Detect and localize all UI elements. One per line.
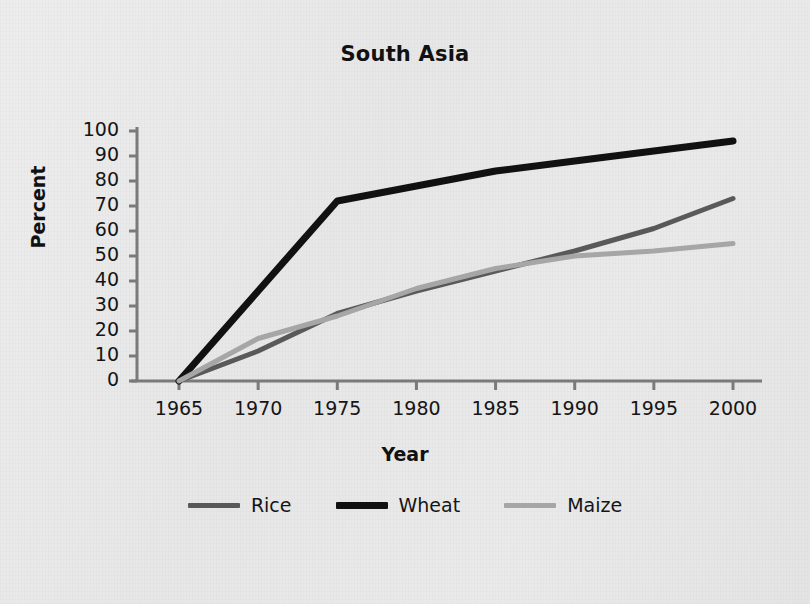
legend-label-maize: Maize <box>567 494 622 516</box>
legend-item-maize: Maize <box>504 494 622 516</box>
legend-swatch-maize <box>504 503 556 508</box>
series-line-wheat <box>179 141 733 381</box>
series-lines <box>179 141 733 381</box>
legend-swatch-wheat <box>336 502 388 509</box>
legend-label-wheat: Wheat <box>399 494 461 516</box>
legend-swatch-rice <box>188 503 240 508</box>
legend-label-rice: Rice <box>251 494 292 516</box>
chart-legend: RiceWheatMaize <box>0 494 810 516</box>
legend-item-rice: Rice <box>188 494 292 516</box>
axis-lines <box>129 127 762 390</box>
legend-item-wheat: Wheat <box>336 494 461 516</box>
chart-figure: South Asia Percent Year 1009080706050403… <box>0 0 810 604</box>
series-line-maize <box>179 244 733 382</box>
